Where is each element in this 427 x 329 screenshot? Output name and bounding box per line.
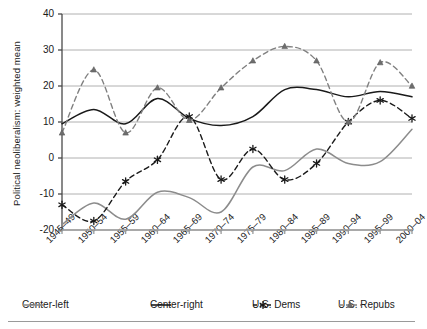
series-center-left bbox=[62, 129, 412, 224]
footer-rule bbox=[8, 321, 415, 322]
series-line bbox=[62, 100, 412, 221]
legend-item-us-repubs[interactable]: U.S. Repubs bbox=[338, 299, 395, 311]
series-u-s-repubs bbox=[59, 43, 415, 135]
data-point-marker bbox=[250, 58, 256, 63]
legend-swatch bbox=[150, 299, 172, 311]
legend-swatch bbox=[22, 299, 44, 311]
legend-swatch bbox=[338, 299, 362, 311]
data-point-marker bbox=[59, 201, 65, 208]
data-point-marker bbox=[282, 176, 288, 183]
series-line bbox=[62, 129, 412, 224]
legend-swatch bbox=[252, 299, 274, 311]
legend-item-us-dems[interactable]: U.S. Dems bbox=[252, 299, 300, 311]
data-point-marker bbox=[59, 130, 65, 135]
data-point-marker bbox=[409, 115, 415, 122]
legend-item-center-left[interactable]: Center-left bbox=[22, 299, 69, 311]
legend-item-center-right[interactable]: Center-right bbox=[150, 299, 203, 311]
data-point-marker bbox=[91, 67, 97, 72]
series-u-s-dems bbox=[59, 97, 415, 225]
data-point-marker bbox=[155, 85, 161, 90]
